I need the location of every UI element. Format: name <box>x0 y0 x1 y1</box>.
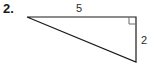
top-side-length-label: 5 <box>76 3 82 14</box>
math-figure: 2. 5 2 <box>0 0 159 76</box>
right-side-length-label: 2 <box>141 35 147 46</box>
triangle-outline <box>27 17 136 62</box>
